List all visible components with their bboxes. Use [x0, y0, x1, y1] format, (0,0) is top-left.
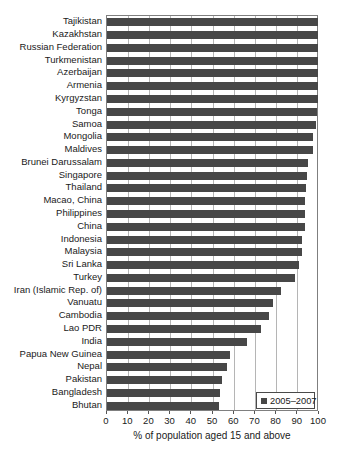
bar-kyrgyzstan [107, 95, 318, 103]
bar-singapore [107, 172, 307, 180]
bar-iran-islamic-rep-of [107, 287, 281, 295]
country-label: Indonesia [0, 233, 102, 244]
bar-indonesia [107, 236, 302, 244]
bar-brunei-darussalam [107, 159, 308, 167]
country-label: Singapore [0, 169, 102, 180]
country-label: Bangladesh [0, 386, 102, 397]
bar-turkey [107, 274, 295, 282]
bar-samoa [107, 121, 316, 129]
country-label: India [0, 335, 102, 346]
bar-thailand [107, 184, 306, 192]
bar-russian-federation [107, 44, 318, 52]
country-label: Turkey [0, 271, 102, 282]
country-label: Kazakhstan [0, 28, 102, 39]
x-tick-mark-100 [318, 411, 319, 414]
bar-papua-new-guinea [107, 351, 230, 359]
legend-label: 2005–2007 [270, 396, 317, 406]
x-tick-mark-70 [254, 411, 255, 414]
x-axis-title: % of population aged 15 and above [106, 430, 318, 441]
country-label: Tajikistan [0, 15, 102, 26]
bar-maldives [107, 146, 313, 154]
country-label: Pakistan [0, 373, 102, 384]
country-label: Malaysia [0, 245, 102, 256]
bar-vanuatu [107, 299, 273, 307]
bar-azerbaijan [107, 69, 318, 77]
bar-malaysia [107, 248, 302, 256]
legend: 2005–2007 [256, 392, 315, 409]
bar-bhutan [107, 402, 219, 410]
country-label: Thailand [0, 181, 102, 192]
country-label: Nepal [0, 360, 102, 371]
country-label: Sri Lanka [0, 258, 102, 269]
bar-macao-china [107, 197, 305, 205]
country-label: Kyrgyzstan [0, 92, 102, 103]
bar-tonga [107, 108, 317, 116]
x-tick-mark-40 [190, 411, 191, 414]
country-label: Iran (Islamic Rep. of) [0, 284, 102, 295]
country-label: Philippines [0, 207, 102, 218]
bar-armenia [107, 82, 318, 90]
country-label: Samoa [0, 118, 102, 129]
country-label: China [0, 220, 102, 231]
bar-india [107, 338, 247, 346]
bar-nepal [107, 363, 227, 371]
x-tick-mark-10 [127, 411, 128, 414]
literacy-bar-chart: TajikistanKazakhstanRussian FederationTu… [0, 0, 340, 459]
x-tick-mark-90 [296, 411, 297, 414]
bar-turkmenistan [107, 57, 318, 65]
country-label: Tonga [0, 105, 102, 116]
country-label: Vanuatu [0, 296, 102, 307]
x-tick-label-100: 100 [303, 415, 333, 426]
country-label: Azerbaijan [0, 66, 102, 77]
x-tick-mark-60 [233, 411, 234, 414]
country-label: Mongolia [0, 130, 102, 141]
x-tick-mark-50 [212, 411, 213, 414]
country-label: Lao PDR [0, 322, 102, 333]
bar-cambodia [107, 312, 269, 320]
country-label: Maldives [0, 143, 102, 154]
country-label: Cambodia [0, 309, 102, 320]
bar-philippines [107, 210, 305, 218]
bar-pakistan [107, 376, 222, 384]
bar-kazakhstan [107, 31, 318, 39]
x-tick-mark-30 [169, 411, 170, 414]
country-label: Macao, China [0, 194, 102, 205]
bar-sri-lanka [107, 261, 299, 269]
bar-mongolia [107, 133, 313, 141]
country-label: Bhutan [0, 399, 102, 410]
bar-bangladesh [107, 389, 220, 397]
x-tick-mark-20 [148, 411, 149, 414]
legend-swatch-icon [261, 398, 267, 404]
country-label: Brunei Darussalam [0, 156, 102, 167]
bar-china [107, 223, 305, 231]
x-tick-mark-0 [106, 411, 107, 414]
country-label: Russian Federation [0, 41, 102, 52]
country-label: Papua New Guinea [0, 348, 102, 359]
plot-area [106, 15, 318, 411]
country-label: Armenia [0, 79, 102, 90]
x-tick-mark-80 [275, 411, 276, 414]
bar-lao-pdr [107, 325, 261, 333]
bar-tajikistan [107, 18, 318, 26]
country-label: Turkmenistan [0, 54, 102, 65]
